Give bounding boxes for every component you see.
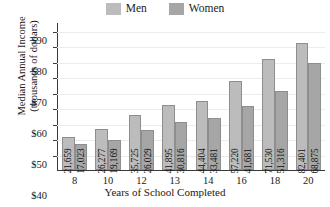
- y-axis-tick-label: $70: [31, 97, 47, 108]
- bar-value-label: 21,659: [63, 149, 73, 174]
- bar-value-label: 57,220: [230, 149, 240, 174]
- bar-value-label: 26,277: [97, 149, 107, 174]
- bar-men-13: 41,895: [162, 105, 175, 170]
- bar-value-label: 33,481: [209, 149, 219, 174]
- plot-wrap: $10$20$30$40$50$60$70$80$90 21,65917,023…: [57, 23, 325, 171]
- bar-value-label: 51,316: [276, 149, 286, 174]
- bar-men-20: 82,401: [296, 43, 309, 171]
- bar-men-14: 44,404: [196, 101, 209, 170]
- bar-value-label: 26,029: [143, 149, 153, 174]
- bar-value-label: 17,023: [76, 149, 86, 174]
- x-axis-title: Years of School Completed: [0, 186, 330, 198]
- legend-label-men: Men: [126, 3, 147, 15]
- bar-group: 35,72526,029: [129, 23, 154, 170]
- y-axis-tick: $10: [53, 156, 57, 157]
- y-axis-tick: $90: [53, 32, 57, 33]
- x-axis-tick-label: 13: [170, 175, 181, 186]
- x-axis-tick-label: 12: [136, 175, 147, 186]
- y-axis-title-line1: Median Annual Income: [16, 16, 28, 115]
- y-axis-tick: $70: [53, 63, 57, 64]
- bar-women-14: 33,481: [208, 118, 221, 170]
- bar-group: 41,89530,816: [162, 23, 187, 170]
- chart-legend: Men Women: [0, 3, 330, 15]
- bar-men-10: 26,277: [95, 129, 108, 170]
- bar-women-18: 51,316: [275, 91, 288, 170]
- bar-group: 21,65917,023: [62, 23, 87, 170]
- bar-group: 57,22041,681: [229, 23, 254, 170]
- bar-women-16: 41,681: [242, 106, 255, 170]
- y-axis-tick-label: $60: [31, 128, 47, 139]
- legend-label-women: Women: [189, 3, 224, 15]
- bar-group: 44,40433,481: [196, 23, 221, 170]
- bar-group: 71,53051,316: [262, 23, 287, 170]
- bar-value-label: 41,895: [164, 149, 174, 174]
- bar-men-8: 21,659: [62, 137, 75, 171]
- y-axis-tick: $50: [53, 94, 57, 95]
- bar-value-label: 35,725: [130, 149, 140, 174]
- bar-group: 26,27719,169: [95, 23, 120, 170]
- bar-value-label: 82,401: [297, 149, 307, 174]
- legend-swatch-women: [169, 3, 184, 15]
- legend-swatch-men: [106, 3, 121, 15]
- bar-men-18: 71,530: [262, 59, 275, 170]
- x-axis-tick-label: 14: [203, 175, 214, 186]
- bar-women-12: 26,029: [141, 130, 154, 170]
- y-axis-tick: $30: [53, 125, 57, 126]
- bar-group: 82,40168,875: [296, 23, 321, 170]
- x-axis-tick-label: 8: [72, 175, 77, 186]
- bar-chart: Men Women Median Annual Income (thousand…: [0, 0, 330, 207]
- bar-women-8: 17,023: [75, 144, 88, 170]
- bar-women-13: 30,816: [175, 122, 188, 170]
- y-axis-tick: $60: [53, 78, 57, 79]
- legend-entry-men: Men: [106, 3, 147, 15]
- legend-entry-women: Women: [169, 3, 224, 15]
- y-axis-tick: $20: [53, 140, 57, 141]
- bar-value-label: 19,169: [109, 149, 119, 174]
- bar-value-label: 30,816: [176, 149, 186, 174]
- y-axis-tick-label: $80: [31, 66, 47, 77]
- x-axis-tick-label: 20: [303, 175, 314, 186]
- bar-value-label: 71,530: [264, 149, 274, 174]
- bar-value-label: 41,681: [243, 149, 253, 174]
- x-axis-tick-label: 16: [236, 175, 247, 186]
- bar-men-12: 35,725: [129, 115, 142, 170]
- bar-groups: 21,65917,02326,27719,16935,72526,02941,8…: [58, 23, 325, 170]
- y-axis-tick: $40: [53, 109, 57, 110]
- x-axis-tick-label: 10: [103, 175, 114, 186]
- bar-men-16: 57,220: [229, 81, 242, 170]
- bar-women-20: 68,875: [308, 63, 321, 170]
- y-axis-tick-label: $50: [31, 159, 47, 170]
- bar-value-label: 44,404: [197, 149, 207, 174]
- bar-women-10: 19,169: [108, 140, 121, 170]
- bar-value-label: 68,875: [310, 149, 320, 174]
- y-axis-tick-label: $90: [31, 35, 47, 46]
- y-axis-tick: $80: [53, 47, 57, 48]
- x-axis-tick-label: 18: [270, 175, 281, 186]
